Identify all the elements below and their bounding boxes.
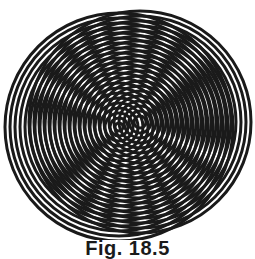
figure-caption: Fig. 18.5 [0, 238, 255, 258]
moire-concentric-circles-figure [0, 0, 255, 240]
